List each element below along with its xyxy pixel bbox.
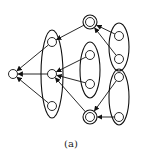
node-n9 xyxy=(115,55,124,64)
figure-caption: (a) xyxy=(0,138,142,149)
node-n7 xyxy=(86,113,95,122)
node-n0 xyxy=(9,70,18,79)
node-n10 xyxy=(115,73,124,82)
node-n2 xyxy=(48,70,57,79)
node-n4 xyxy=(86,18,95,27)
edge-n6-to-n2 xyxy=(57,75,86,83)
edge-n5-to-n2 xyxy=(56,57,86,72)
edge-n3-to-n0 xyxy=(17,77,49,103)
edge-n4-to-n1 xyxy=(56,25,83,39)
node-n1 xyxy=(48,38,57,47)
node-n6 xyxy=(86,80,95,89)
graph-nodes xyxy=(9,15,124,124)
node-n8 xyxy=(115,32,124,41)
node-n5 xyxy=(86,51,95,60)
edge-n1-to-n0 xyxy=(17,45,49,71)
node-n11 xyxy=(115,113,124,122)
node-n3 xyxy=(48,102,57,111)
edge-n10-to-n7 xyxy=(94,81,116,111)
graph-edges xyxy=(17,25,116,117)
